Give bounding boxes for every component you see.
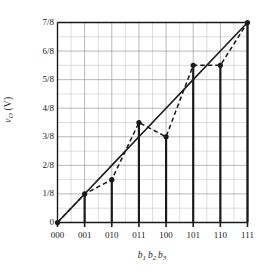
plot-area	[0, 0, 262, 272]
dac-transfer-characteristic-chart: vO (V) b1 b2 b3 01/82/83/84/85/86/87/8 0…	[0, 0, 262, 272]
